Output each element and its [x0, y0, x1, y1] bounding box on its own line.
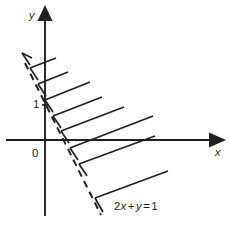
equation-rhs: 1	[151, 200, 157, 212]
y-axis-arrow-icon	[38, 5, 53, 21]
hatch-mark	[61, 107, 124, 143]
hatch-mark	[53, 97, 102, 128]
hatch-mark	[79, 136, 155, 176]
equation-equals: =	[142, 200, 152, 212]
graph-figure: y x 1 0 2x+y=1	[0, 0, 240, 227]
hatch-mark	[45, 82, 90, 112]
hatching-group	[22, 53, 168, 212]
equation-var-y: y	[136, 200, 142, 212]
boundary-equation-label: 2x+y=1	[114, 201, 158, 213]
origin-label: 0	[32, 148, 38, 160]
y-tick-label-1: 1	[33, 99, 39, 111]
equation-plus: +	[126, 200, 136, 212]
hatch-mark	[30, 58, 56, 80]
boundary-line-dashed	[25, 63, 101, 215]
graph-canvas	[0, 0, 240, 227]
y-axis-label: y	[29, 10, 35, 21]
x-axis-label: x	[215, 147, 221, 158]
hatch-mark	[22, 53, 32, 65]
